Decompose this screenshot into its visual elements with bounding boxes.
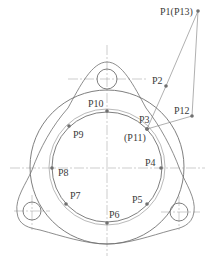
flange-toolpath-diagram: P1(P13)P2P3(P11)P4P5P6P7P8P9P10P12 — [0, 0, 212, 267]
point-marker-p4 — [159, 166, 163, 170]
point-label-p7: P7 — [70, 190, 81, 201]
point-marker-p5 — [145, 202, 149, 206]
point-label-p6: P6 — [109, 209, 120, 220]
point-label-p5: P5 — [132, 194, 143, 205]
point-label-p8: P8 — [58, 167, 69, 178]
point-label-p9: P9 — [73, 129, 84, 140]
point-marker-p10 — [105, 109, 109, 113]
point-marker-p2 — [164, 84, 168, 88]
point-marker-p12 — [190, 114, 194, 118]
point-label-p3: P3 — [139, 114, 150, 125]
point-marker-p7 — [64, 202, 68, 206]
point-label-p4: P4 — [145, 157, 156, 168]
point-marker-p8 — [50, 166, 54, 170]
point-label-p10: P10 — [88, 98, 104, 109]
point-marker-p11 — [145, 127, 149, 131]
point-marker-p9 — [67, 124, 71, 128]
point-marker-p1 — [196, 9, 200, 13]
point-label-p2: P2 — [152, 75, 163, 86]
point-label-p1: P1(P13) — [160, 6, 193, 18]
point-label-p11: (P11) — [124, 132, 146, 144]
point-marker-p6 — [105, 221, 109, 225]
point-label-p12: P12 — [174, 105, 190, 116]
diagram-canvas: P1(P13)P2P3(P11)P4P5P6P7P8P9P10P12 — [0, 0, 212, 267]
approach-path — [147, 11, 198, 129]
